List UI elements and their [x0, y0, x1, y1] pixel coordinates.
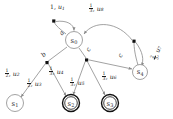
- transition-label-u4: 13, u4: [49, 67, 63, 77]
- frac-u5: 13: [70, 78, 74, 88]
- sub-u6: 6: [114, 75, 117, 80]
- edge-c-u6-to-s4: [88, 60, 132, 69]
- sub-u2: 2: [17, 72, 20, 77]
- transition-label-u2: 12, u2: [5, 69, 19, 79]
- edge-s4-to-dot-c4: [134, 42, 138, 65]
- edge-c4-u8-to-s0: [84, 25, 133, 41]
- branch-dot-c: [85, 58, 88, 61]
- transition-label-u6: 13, u6: [102, 72, 116, 82]
- frac-u2: 12: [5, 69, 9, 79]
- state-s4[interactable]: s4: [133, 65, 148, 80]
- transition-label-u8: 13, u8: [89, 4, 103, 14]
- frac-u4: 13: [49, 67, 53, 77]
- frac-u3: 12: [27, 79, 31, 89]
- state-s3[interactable]: s3: [102, 95, 119, 112]
- frac-u8: 13: [89, 4, 93, 14]
- sub-u5: 5: [82, 81, 85, 86]
- branch-dot-a: [52, 19, 55, 22]
- frac-u6: 13: [102, 72, 106, 82]
- branch-dot-c4: [132, 40, 135, 43]
- transition-label-u1: 1, u1: [50, 4, 65, 11]
- sub-u3: 3: [39, 82, 42, 87]
- edge-c4-group: [84, 25, 143, 66]
- state-s2[interactable]: s2: [63, 95, 80, 112]
- diagram-canvas: s0 s1 s2 s3 s4 a b c c 1, u1 13, u8 2: [0, 0, 173, 119]
- edge-c4-u7-to-s4: [136, 42, 143, 66]
- branch-dot-b: [45, 61, 48, 64]
- state-s1[interactable]: s1: [7, 95, 24, 112]
- transition-label-u3: 12, u3: [27, 79, 41, 89]
- transition-label-u5: 13, u5: [70, 78, 84, 88]
- automaton-svg: s0 s1 s2 s3 s4: [0, 0, 173, 119]
- state-s0[interactable]: s0: [66, 32, 83, 49]
- edge-s0-to-dot-b: [47, 47, 67, 62]
- sub-u1: 1: [62, 6, 65, 11]
- sub-u4: 4: [61, 70, 64, 75]
- sub-u8: 8: [101, 7, 104, 12]
